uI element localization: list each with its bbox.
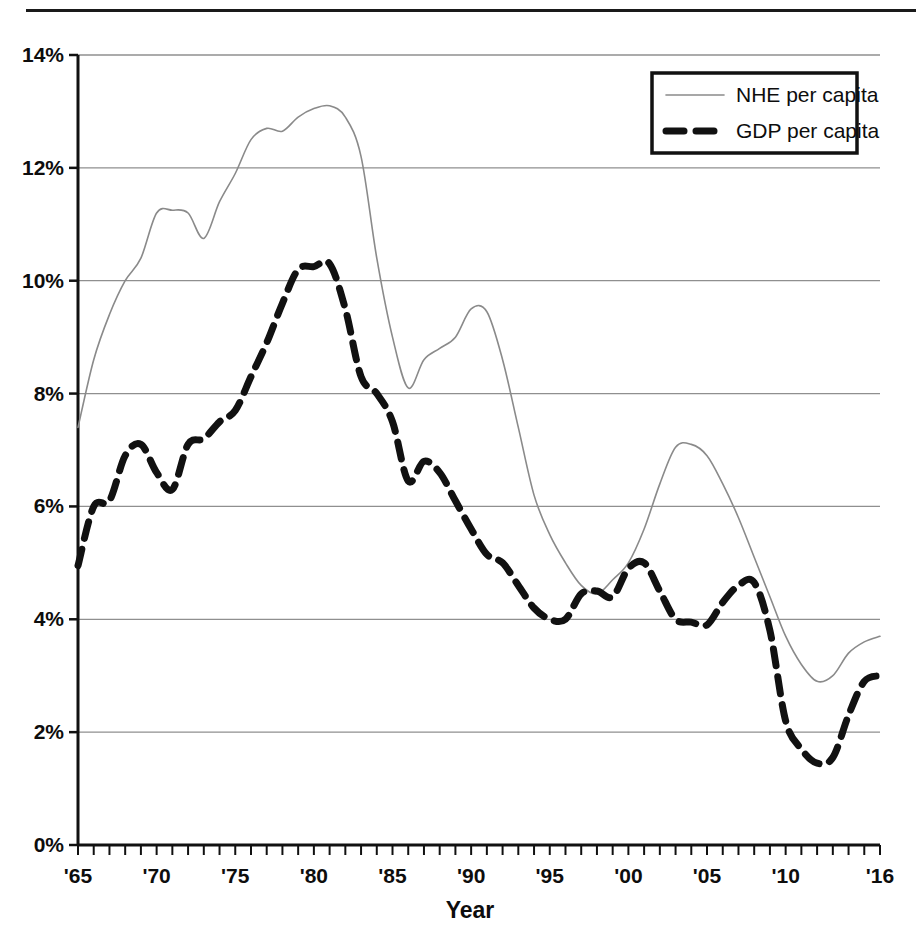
y-axis-tick-label: 0%	[34, 833, 65, 856]
legend-label-2: GDP per capita	[736, 119, 880, 142]
x-axis-tick-label: '95	[536, 864, 565, 887]
y-axis-tick-label: 8%	[34, 382, 65, 405]
y-axis-tick-label: 12%	[22, 156, 64, 179]
x-axis-tick-label: '85	[378, 864, 407, 887]
x-axis-tick-label: '16	[866, 864, 894, 887]
x-axis-tick-label: '00	[614, 864, 642, 887]
x-axis-tick-label: '05	[693, 864, 722, 887]
y-axis-tick-label: 4%	[34, 607, 65, 630]
y-axis-tick-label: 10%	[22, 269, 64, 292]
x-axis-tick-label: '90	[457, 864, 485, 887]
y-axis-tick-label: 6%	[34, 494, 65, 517]
x-axis-tick-label: '75	[221, 864, 250, 887]
line-chart: 0%2%4%6%8%10%12%14% '65'70'75'80'85'90'9…	[0, 0, 917, 952]
x-axis-tick-label: '80	[300, 864, 328, 887]
legend-label-1: NHE per capita	[736, 83, 879, 106]
data-series	[78, 105, 880, 764]
x-axis-title: Year	[446, 897, 495, 923]
chart-legend[interactable]: NHE per capitaGDP per capita	[652, 73, 880, 153]
y-axis-tick-label: 2%	[34, 720, 65, 743]
gridlines	[78, 55, 880, 732]
x-axis-tick-labels: '65'70'75'80'85'90'95'00'05'10'16	[64, 864, 894, 887]
y-axis-tick-label: 14%	[22, 43, 64, 66]
x-axis-tick-label: '65	[64, 864, 93, 887]
chart-figure: 0%2%4%6%8%10%12%14% '65'70'75'80'85'90'9…	[0, 0, 917, 952]
series-line-2	[78, 261, 880, 764]
y-axis-tick-labels: 0%2%4%6%8%10%12%14%	[22, 43, 64, 856]
x-axis-tick-label: '10	[771, 864, 799, 887]
x-axis-tick-label: '70	[142, 864, 170, 887]
